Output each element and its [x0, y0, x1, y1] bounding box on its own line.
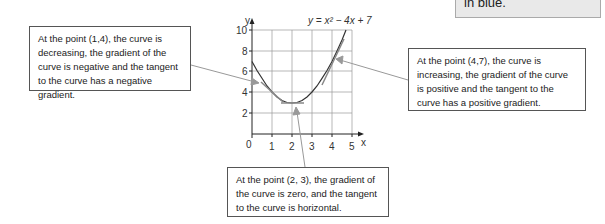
- svg-text:3: 3: [309, 141, 315, 152]
- svg-text:2: 2: [242, 108, 248, 119]
- equation-label: y = x² − 4x + 7: [307, 15, 372, 26]
- svg-text:2: 2: [289, 141, 295, 152]
- svg-text:1: 1: [269, 141, 275, 152]
- svg-text:8: 8: [242, 46, 248, 57]
- svg-text:10: 10: [236, 25, 248, 36]
- grid: [252, 30, 352, 134]
- x-axis-arrow-icon: [358, 132, 364, 137]
- svg-text:6: 6: [242, 66, 248, 77]
- graph: 1086 42 012 345 xy y = x² − 4x + 7: [0, 0, 605, 224]
- svg-text:y: y: [245, 15, 250, 26]
- svg-text:4: 4: [329, 141, 335, 152]
- svg-text:4: 4: [242, 87, 248, 98]
- svg-text:5: 5: [349, 141, 355, 152]
- svg-text:x: x: [361, 137, 366, 148]
- svg-text:0: 0: [246, 139, 252, 150]
- y-axis-arrow-icon: [250, 18, 255, 24]
